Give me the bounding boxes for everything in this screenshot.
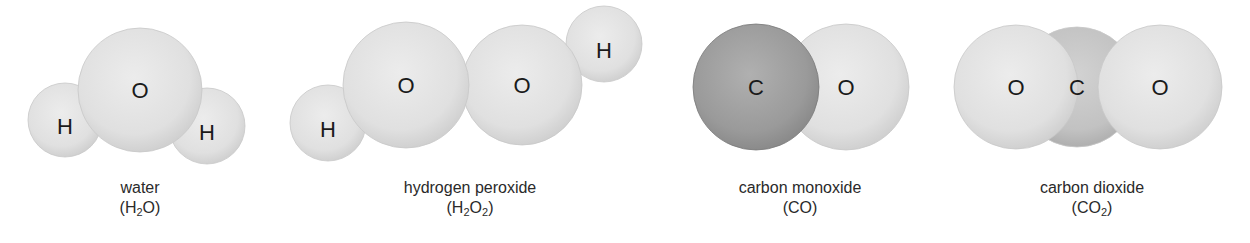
molecule-name: carbon dioxide	[1040, 179, 1144, 196]
atom-label: H	[320, 117, 336, 142]
molecule-water: HHO	[28, 28, 245, 164]
atom-label: O	[513, 73, 530, 98]
atom-label: C	[748, 75, 764, 100]
atom-label: H	[596, 38, 612, 63]
formula-text: (CO)	[783, 199, 818, 216]
atom-label: O	[837, 75, 854, 100]
atom-label: O	[1007, 75, 1024, 100]
molecule-formula: (H2O)	[120, 198, 161, 218]
molecule-carbon-dioxide: COO	[954, 25, 1222, 149]
caption-water: water(H2O)	[120, 178, 161, 218]
formula-text: (H	[120, 199, 137, 216]
molecule-hydrogen-peroxide: HHOO	[290, 6, 642, 161]
formula-text: (CO	[1072, 199, 1101, 216]
atom-label: O	[397, 73, 414, 98]
molecule-carbon-monoxide: OC	[693, 24, 909, 150]
caption-carbon-dioxide: carbon dioxide(CO2)	[1040, 178, 1144, 218]
atom-label: H	[199, 120, 215, 145]
molecule-formula: (H2O2)	[404, 198, 537, 218]
formula-text: O	[470, 199, 482, 216]
atom-label: O	[131, 78, 148, 103]
formula-text: )	[1107, 199, 1112, 216]
molecule-formula: (CO2)	[1040, 198, 1144, 218]
atom-label: H	[57, 114, 73, 139]
atom-label: C	[1069, 75, 1085, 100]
caption-carbon-monoxide: carbon monoxide(CO)	[739, 178, 862, 218]
atoms-layer: HHOHHOOOCCOO	[28, 6, 1222, 164]
molecule-name: hydrogen peroxide	[404, 179, 537, 196]
atom-label: O	[1151, 75, 1168, 100]
formula-text: (H	[447, 199, 464, 216]
formula-text: )	[488, 199, 493, 216]
caption-hydrogen-peroxide: hydrogen peroxide(H2O2)	[404, 178, 537, 218]
molecule-formula: (CO)	[739, 198, 862, 218]
molecule-name: carbon monoxide	[739, 179, 862, 196]
formula-text: O)	[143, 199, 161, 216]
molecule-name: water	[120, 179, 159, 196]
